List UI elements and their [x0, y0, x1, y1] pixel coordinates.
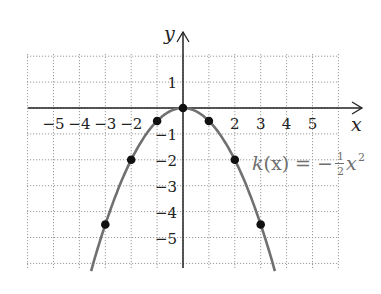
data-point: [153, 117, 162, 126]
y-tick-label: −1: [155, 126, 177, 144]
x-axis-label: x: [351, 113, 362, 135]
x-tick-label: 3: [256, 115, 266, 133]
data-point: [101, 220, 110, 229]
y-tick-label: −2: [155, 152, 177, 170]
data-point: [205, 117, 214, 126]
y-tick-label: −5: [155, 230, 177, 248]
function-label: k(x) = − 1 2 x 2: [252, 150, 365, 178]
x-tick-label: 5: [308, 115, 318, 133]
data-point: [231, 156, 240, 165]
x-tick-label: −4: [68, 115, 90, 133]
data-point: [127, 156, 136, 165]
x-tick-label: 4: [282, 115, 292, 133]
x-tick-label: −5: [42, 115, 64, 133]
y-tick-label: 1: [167, 74, 177, 92]
axes: [28, 32, 362, 268]
y-tick-label: −4: [155, 204, 177, 222]
x-tick-label: 2: [230, 115, 240, 133]
data-point: [179, 104, 188, 113]
svg-text:k(x) = −: k(x) = −: [252, 152, 333, 174]
svg-text:x: x: [346, 152, 357, 174]
x-tick-label: −2: [120, 115, 142, 133]
data-point: [256, 220, 265, 229]
y-tick-label: −3: [155, 178, 177, 196]
svg-text:2: 2: [337, 165, 344, 178]
svg-text:1: 1: [337, 150, 344, 163]
svg-text:2: 2: [358, 151, 365, 164]
parabola-chart: −5−4−3−223451−1−2−3−4−5 x y k(x) = − 1 2…: [0, 0, 381, 294]
y-axis-label: y: [163, 22, 175, 44]
x-tick-label: −3: [94, 115, 116, 133]
